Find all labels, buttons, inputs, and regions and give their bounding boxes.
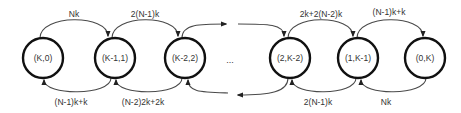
edge-backward-n5-n4 <box>361 78 426 92</box>
edge-backward-n2-n1 <box>116 78 182 92</box>
edge-forward-n0-n1 <box>40 20 108 38</box>
edge-backward-n1-n0 <box>44 78 111 92</box>
edge-backward-in-n2 <box>188 80 228 93</box>
node-label: (K-2,2) <box>172 54 198 63</box>
node-label: (K,0) <box>34 54 52 63</box>
edge-backward-n4-n3 <box>292 78 356 92</box>
edge-forward-n3-n4 <box>288 20 353 38</box>
edge-label-backward: (N-1)k+k <box>55 98 88 107</box>
edge-backward-n3-out <box>238 78 288 95</box>
edge-label-backward: Nk <box>381 98 391 107</box>
edge-label-forward: 2(N-1)k <box>131 10 159 19</box>
edge-forward-n1-n2 <box>112 20 178 38</box>
node-label: (1,K-1) <box>345 54 371 63</box>
edge-label-forward: (N-1)k+k <box>373 8 406 17</box>
ellipsis: ... <box>226 56 234 65</box>
edge-label-backward: (N-2)2k+2k <box>122 98 164 107</box>
node-label: (2,K-2) <box>277 54 303 63</box>
edge-forward-n2-out <box>182 24 226 38</box>
edge-forward-in-n3 <box>238 24 284 36</box>
edge-label-backward: 2(N-1)k <box>304 98 332 107</box>
edge-forward-n4-n5 <box>357 20 423 38</box>
edge-label-forward: 2k+2(N-2)k <box>300 10 342 19</box>
node-label: (0,K) <box>416 54 434 63</box>
node-label: (K-1,1) <box>102 54 128 63</box>
edge-label-forward: Nk <box>69 10 79 19</box>
